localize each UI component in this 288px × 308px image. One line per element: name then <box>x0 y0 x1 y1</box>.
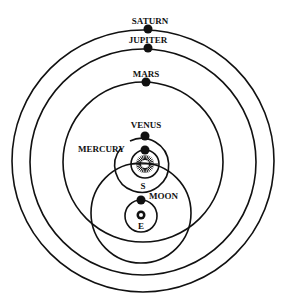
moon-label: MOON <box>149 191 178 201</box>
sun-ray <box>136 164 141 165</box>
moon-planet <box>137 196 146 205</box>
venus-planet <box>141 132 150 141</box>
jupiter-label: JUPITER <box>129 35 168 45</box>
mars-label: MARS <box>133 69 160 79</box>
venus-label: VENUS <box>131 120 162 130</box>
sun-ray <box>149 163 154 164</box>
sun-ray <box>145 168 146 173</box>
sun-label: S <box>140 181 145 191</box>
sun-ray <box>149 164 154 165</box>
sun-ray <box>144 155 145 160</box>
sun-icon <box>132 155 158 173</box>
earth-label: E <box>138 221 144 231</box>
saturn-label: SATURN <box>132 16 169 26</box>
sun-ray <box>136 163 141 164</box>
sun-ray <box>145 155 146 160</box>
planetary-system-diagram: SATURN JUPITER MARS VENUS MERCURY S MOON… <box>0 0 288 308</box>
earth-icon <box>137 211 146 220</box>
mercury-planet <box>141 146 150 155</box>
mercury-label: MERCURY <box>78 144 125 154</box>
sun-ray <box>144 168 145 173</box>
